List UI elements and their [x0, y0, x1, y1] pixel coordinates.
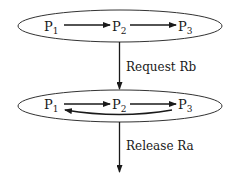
- process-p1: P1: [44, 19, 58, 36]
- transition-label-release-ra: Release Ra: [126, 139, 194, 153]
- process-p1: P1: [44, 97, 58, 114]
- state-1-group: P1 P2 P3: [18, 10, 222, 42]
- process-p2: P2: [112, 19, 126, 36]
- state-2-group: P1 P2 P3: [18, 90, 222, 122]
- transition-label-request-rb: Request Rb: [126, 60, 196, 74]
- diagram-canvas: P1 P2 P3 Request Rb P1 P2 P3 Release Ra: [0, 0, 231, 196]
- process-p2: P2: [112, 97, 126, 114]
- process-p3: P3: [178, 97, 193, 114]
- process-p3: P3: [178, 19, 193, 36]
